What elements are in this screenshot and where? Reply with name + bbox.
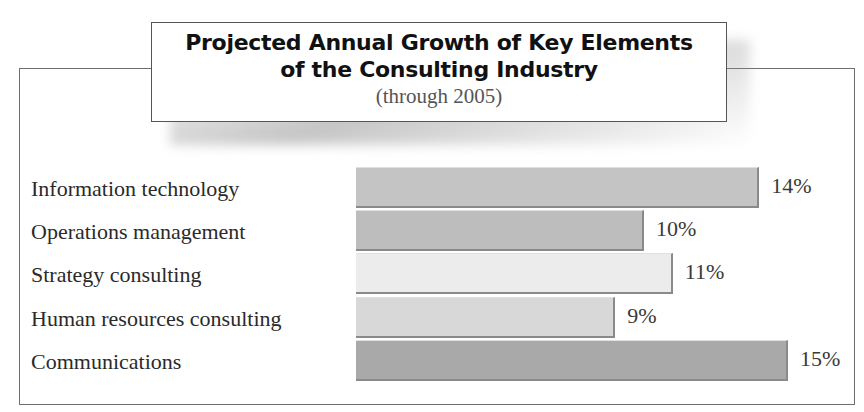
- category-label: Information technology: [31, 176, 239, 202]
- category-label: Strategy consulting: [31, 262, 201, 288]
- title-line-2: of the Consulting Industry: [152, 56, 726, 83]
- category-label: Human resources consulting: [31, 306, 282, 332]
- title-box: Projected Annual Growth of Key Elements …: [151, 22, 727, 122]
- value-label: 15%: [800, 346, 840, 372]
- value-label: 11%: [685, 259, 725, 285]
- bar: [356, 340, 788, 381]
- value-label: 9%: [627, 303, 656, 329]
- value-label: 10%: [656, 216, 696, 242]
- bar: [356, 297, 615, 338]
- bar: [356, 210, 644, 251]
- bar: [356, 253, 673, 294]
- category-label: Operations management: [31, 219, 245, 245]
- value-label: 14%: [771, 173, 811, 199]
- category-label: Communications: [31, 349, 181, 375]
- chart-subtitle: (through 2005): [152, 83, 726, 109]
- bar: [356, 167, 759, 208]
- title-line-1: Projected Annual Growth of Key Elements: [152, 29, 726, 56]
- chart-title: Projected Annual Growth of Key Elements …: [152, 29, 726, 83]
